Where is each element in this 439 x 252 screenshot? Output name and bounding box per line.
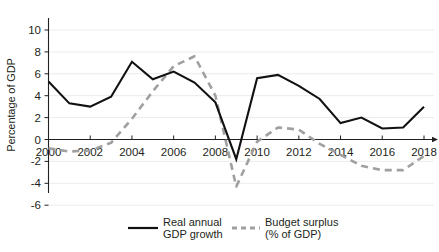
legend-label-budget-surplus-line1: Budget surplus [265,216,339,228]
x-tick-label-2006: 2006 [161,146,187,158]
x-tick-label-2016: 2016 [369,146,395,158]
y-tick-label--4: -4 [31,177,42,189]
chart-background [0,0,439,252]
gdp-budget-line-chart: 1086420-2-4-6 20002002200420062008201020… [0,0,439,252]
chart-container: 1086420-2-4-6 20002002200420062008201020… [0,0,439,252]
x-tick-label-2010: 2010 [244,146,270,158]
y-tick-label-10: 10 [28,24,41,36]
x-tick-label-2004: 2004 [119,146,145,158]
y-tick-label-8: 8 [35,46,41,58]
y-tick-label-2: 2 [35,112,41,124]
y-axis-title: Percentage of GDP [5,58,17,152]
x-tick-label-2000: 2000 [36,146,62,158]
y-tick-label-4: 4 [35,90,42,102]
x-tick-label-2008: 2008 [203,146,229,158]
legend-label-gdp-growth-line1: Real annual [163,216,222,228]
y-tick-label-6: 6 [35,68,41,80]
x-tick-label-2012: 2012 [286,146,312,158]
x-tick-label-2018: 2018 [411,146,437,158]
legend-label-budget-surplus-line2: (% of GDP) [265,228,321,240]
y-tick-label--6: -6 [31,199,41,211]
y-tick-label-0: 0 [35,134,41,146]
legend-label-gdp-growth-line2: GDP growth [163,228,223,240]
